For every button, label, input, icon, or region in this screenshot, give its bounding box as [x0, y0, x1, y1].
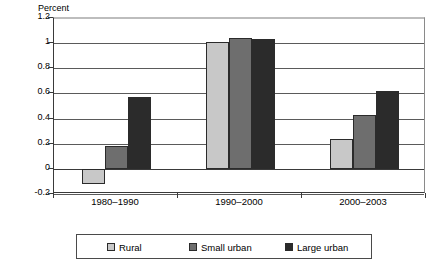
- gridline: [54, 194, 424, 195]
- y-tick-mark: [48, 168, 53, 169]
- bar: [82, 169, 105, 184]
- bar: [105, 146, 128, 169]
- x-axis-category-label: 1980–1990: [53, 196, 177, 207]
- y-tick-mark: [48, 118, 53, 119]
- x-axis-category-label: 1990–2000: [177, 196, 301, 207]
- legend-label: Small urban: [201, 242, 252, 253]
- chart-figure: Percent 1.210.80.60.40.20-0.2 1980–19901…: [0, 0, 446, 268]
- bar: [330, 139, 353, 169]
- bar: [252, 39, 275, 168]
- legend-label: Large urban: [297, 242, 348, 253]
- legend-swatch-icon: [189, 243, 197, 251]
- bar: [376, 91, 399, 169]
- bar: [229, 38, 252, 169]
- y-tick-mark: [48, 143, 53, 144]
- bar-group: [54, 18, 178, 192]
- y-tick-mark: [48, 67, 53, 68]
- bar-group: [302, 18, 426, 192]
- y-tick-mark: [48, 92, 53, 93]
- x-tick-mark: [425, 193, 426, 198]
- bar-group: [178, 18, 302, 192]
- legend-item[interactable]: Rural: [107, 240, 142, 254]
- bars-layer: [54, 18, 424, 192]
- bar: [353, 115, 376, 169]
- bar: [206, 42, 229, 169]
- legend-swatch-icon: [107, 243, 115, 251]
- legend-swatch-icon: [285, 243, 293, 251]
- legend-label: Rural: [119, 242, 142, 253]
- legend-item[interactable]: Small urban: [189, 240, 252, 254]
- legend-item[interactable]: Large urban: [285, 240, 348, 254]
- plot-area: [53, 17, 425, 193]
- bar: [128, 97, 151, 169]
- y-tick-mark: [48, 17, 53, 18]
- y-tick-mark: [48, 42, 53, 43]
- chart-legend: RuralSmall urbanLarge urban: [76, 234, 372, 259]
- x-axis-category-label: 2000–2003: [301, 196, 425, 207]
